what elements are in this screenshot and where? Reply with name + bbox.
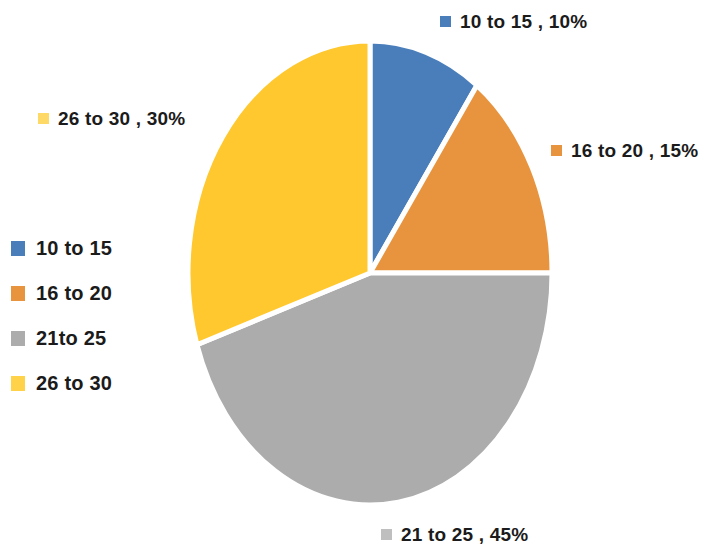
pie-slice-group — [188, 41, 552, 505]
data-label-10-to-15: 10 to 15 , 10% — [440, 12, 587, 31]
data-label-swatch-icon-10-to-15 — [440, 16, 451, 27]
data-label-21-to-25: 21 to 25 , 45% — [381, 525, 528, 544]
legend-label-16-to-20: 16 to 20 — [36, 283, 112, 303]
data-label-text-21-to-25: 21 to 25 , 45% — [401, 525, 528, 544]
legend-label-21-to-25: 21to 25 — [36, 328, 106, 348]
data-label-text-16-to-20: 16 to 20 , 15% — [571, 141, 698, 160]
data-label-text-10-to-15: 10 to 15 , 10% — [460, 12, 587, 31]
legend-item-21-to-25[interactable]: 21to 25 — [11, 328, 112, 348]
legend-label-26-to-30: 26 to 30 — [36, 373, 112, 393]
legend-swatch-icon-16-to-20 — [11, 286, 25, 301]
legend-swatch-icon-10-to-15 — [11, 241, 25, 256]
legend-label-10-to-15: 10 to 15 — [36, 238, 112, 258]
data-label-26-to-30: 26 to 30 , 30% — [38, 109, 185, 128]
legend-item-16-to-20[interactable]: 16 to 20 — [11, 283, 112, 303]
legend-swatch-icon-26-to-30 — [11, 376, 25, 391]
legend-swatch-icon-21-to-25 — [11, 331, 25, 346]
pie-chart-figure: 10 to 15 , 10% 16 to 20 , 15% 21 to 25 ,… — [0, 0, 720, 553]
data-label-16-to-20: 16 to 20 , 15% — [551, 141, 698, 160]
chart-legend: 10 to 15 16 to 20 21to 25 26 to 30 — [11, 238, 112, 393]
data-label-text-26-to-30: 26 to 30 , 30% — [58, 109, 185, 128]
data-label-swatch-icon-26-to-30 — [38, 113, 49, 124]
legend-item-26-to-30[interactable]: 26 to 30 — [11, 373, 112, 393]
legend-item-10-to-15[interactable]: 10 to 15 — [11, 238, 112, 258]
data-label-swatch-icon-21-to-25 — [381, 529, 392, 540]
data-label-swatch-icon-16-to-20 — [551, 145, 562, 156]
